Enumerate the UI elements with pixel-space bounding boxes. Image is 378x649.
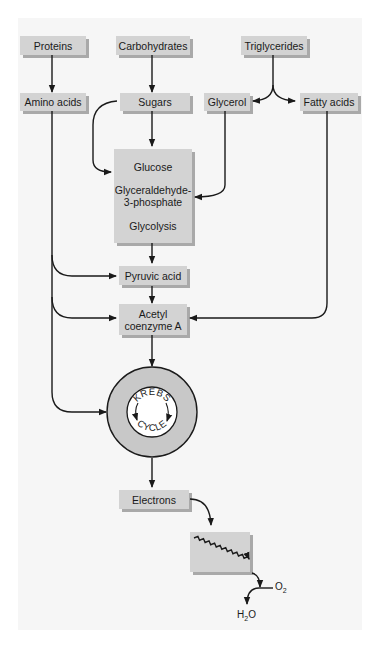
connector-arrows: KREBS CYCLE (0, 0, 378, 649)
